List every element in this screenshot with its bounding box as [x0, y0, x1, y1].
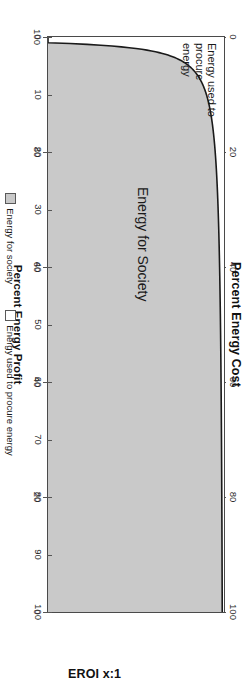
axis-ticks-percent-energy-profit: 100806040200	[29, 36, 43, 613]
tickmark-eroi-30	[47, 210, 52, 211]
annotation-energy-for-society: Energy for Society	[134, 187, 150, 301]
tickmark-eroi-90	[47, 555, 52, 556]
tick-cost-100: 100	[228, 604, 239, 620]
legend-swatch-icon	[5, 193, 16, 204]
tickmark-profit-60	[43, 267, 48, 268]
tickmark-profit-40	[43, 382, 48, 383]
tick-profit-80: 80	[32, 147, 43, 158]
tickmark-eroi-50	[47, 325, 52, 326]
tick-cost-60: 60	[228, 377, 239, 388]
legend-swatch-icon	[5, 310, 16, 321]
tickmark-profit-20	[43, 497, 48, 498]
tickmark-profit-0	[43, 612, 48, 613]
axis-title-eroi: EROI x:1	[69, 667, 122, 681]
tick-profit-40: 40	[32, 377, 43, 388]
chart-legend: Energy for societyEnergy used to procure…	[5, 36, 16, 613]
tick-profit-20: 20	[32, 492, 43, 503]
legend-item-energy-used-to-procure-energy: Energy used to procure energy	[5, 310, 16, 455]
tickmark-profit-80	[43, 152, 48, 153]
legend-label: Energy for society	[5, 208, 16, 284]
tick-cost-80: 80	[228, 492, 239, 503]
tickmark-profit-100	[43, 37, 48, 38]
tickmark-eroi-10	[47, 95, 52, 96]
legend-item-energy-for-society: Energy for society	[5, 193, 16, 284]
tick-profit-100: 100	[32, 29, 43, 45]
plot-area: Energy used to procure energy Energy for…	[47, 36, 225, 613]
axis-ticks-percent-energy-cost: 020406080100	[225, 36, 239, 613]
tick-profit-60: 60	[32, 262, 43, 273]
legend-label: Energy used to procure energy	[5, 325, 16, 455]
tick-profit-0: 0	[32, 609, 43, 614]
annotation-energy-used-to-procure-energy: Energy used to procure energy	[181, 43, 218, 163]
tick-cost-0: 0	[228, 34, 239, 39]
tickmark-eroi-70	[47, 440, 52, 441]
tick-cost-40: 40	[228, 262, 239, 273]
tick-cost-20: 20	[228, 147, 239, 158]
